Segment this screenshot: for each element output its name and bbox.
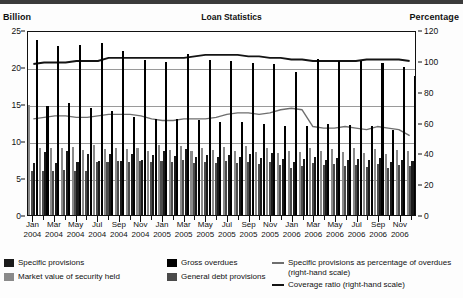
legend-item-specific_provisions: Specific provisions	[4, 258, 154, 268]
y-axis-right-tick	[418, 31, 422, 32]
y-axis-right-tick	[418, 185, 422, 186]
y-axis-right-tick	[418, 61, 422, 62]
y-axis-left-tick-label: 20	[12, 63, 21, 73]
bar-general_debt_provisions	[377, 164, 379, 215]
y-axis-left-tick	[21, 68, 25, 69]
bar-gross_overdues	[209, 60, 211, 215]
bar-specific_provisions	[44, 152, 46, 215]
bar-specific_provisions	[303, 159, 305, 215]
bar-market_value	[147, 151, 149, 215]
bar-specific_provisions	[347, 160, 349, 216]
legend-item-market_value: Market value of security held	[4, 272, 174, 282]
bar-market_value	[299, 152, 301, 215]
bar-market_value	[309, 148, 311, 215]
bar-general_debt_provisions	[301, 166, 303, 215]
bar-specific_provisions	[76, 162, 78, 215]
bar-specific_provisions	[368, 160, 370, 215]
bar-specific_provisions	[411, 161, 413, 215]
bar-specific_provisions	[87, 154, 89, 215]
bar-specific_provisions	[336, 158, 338, 215]
bar-market_value	[82, 150, 84, 215]
bar-specific_provisions	[120, 161, 122, 215]
bar-gross_overdues	[273, 64, 275, 215]
bar-general_debt_provisions	[312, 163, 314, 215]
bar-market_value	[212, 150, 214, 215]
bar-general_debt_provisions	[182, 160, 184, 215]
y-axis-right-tick-label: 60	[424, 119, 433, 129]
bar-market_value	[407, 151, 409, 215]
bar-gross_overdues	[144, 60, 146, 215]
bar-market_value	[288, 151, 290, 215]
bar-specific_provisions	[293, 162, 295, 215]
bar-gross_overdues	[57, 46, 59, 215]
bar-market_value	[201, 148, 203, 215]
bar-gross_overdues	[252, 63, 254, 215]
bar-market_value	[342, 152, 344, 215]
bar-gross_overdues	[327, 124, 329, 215]
bar-gross_overdues	[306, 126, 308, 215]
x-label-month: Nov	[383, 220, 417, 230]
bar-general_debt_provisions	[355, 165, 357, 215]
legend-line-swatch	[272, 284, 284, 286]
bar-specific_provisions	[109, 154, 111, 215]
x-axis-label: Nov2006	[383, 220, 417, 240]
bar-market_value	[396, 150, 398, 215]
bar-general_debt_provisions	[31, 171, 33, 215]
bar-gross_overdues	[122, 51, 124, 215]
bar-specific_provisions	[249, 154, 251, 215]
y-axis-left-tick	[21, 179, 25, 180]
y-axis-right-tick	[418, 216, 422, 217]
bar-market_value	[255, 152, 257, 215]
bar-general_debt_provisions	[160, 161, 162, 215]
bar-market_value	[72, 147, 74, 215]
bar-specific_provisions	[206, 155, 208, 215]
bar-gross_overdues	[176, 119, 178, 215]
bar-market_value	[158, 145, 160, 215]
legend-label: Gross overdues	[181, 258, 237, 268]
bar-gross_overdues	[263, 124, 265, 215]
bar-general_debt_provisions	[225, 161, 227, 215]
bar-general_debt_provisions	[366, 167, 368, 215]
bar-market_value	[28, 105, 30, 215]
bar-specific_provisions	[239, 157, 241, 215]
bar-specific_provisions	[379, 158, 381, 215]
legend-item-spec_pct_overdues: Specific provisions as percentage of ove…	[272, 258, 463, 278]
bar-specific_provisions	[131, 154, 133, 215]
y-axis-right-tick-label: 20	[424, 180, 433, 190]
bar-gross_overdues	[284, 126, 286, 215]
bar-general_debt_provisions	[171, 162, 173, 215]
bar-gross_overdues	[68, 103, 70, 215]
y-axis-right-tick	[418, 154, 422, 155]
legend-label: Market value of security held	[18, 272, 120, 282]
y-axis-left-tick	[21, 105, 25, 106]
chart-legend: Specific provisionsMarket value of secur…	[4, 258, 463, 296]
bar-general_debt_provisions	[63, 170, 65, 215]
y-axis-right-tick-label: 40	[424, 149, 433, 159]
y-axis-left: 0510152025	[0, 31, 25, 216]
legend-item-gross_overdues: Gross overdues	[167, 258, 257, 268]
bar-specific_provisions	[55, 163, 57, 215]
y-axis-right-tick-label: 80	[424, 88, 433, 98]
bar-market_value	[245, 146, 247, 215]
bar-gross_overdues	[338, 61, 340, 215]
bar-specific_provisions	[228, 155, 230, 215]
bar-specific_provisions	[390, 162, 392, 215]
bar-general_debt_provisions	[247, 162, 249, 215]
bar-market_value	[61, 148, 63, 215]
legend-line-swatch	[272, 262, 284, 264]
bar-market_value	[50, 148, 52, 215]
bar-general_debt_provisions	[139, 161, 141, 215]
chart-screenshot: Billion Percentage Loan Statistics 05101…	[0, 0, 463, 298]
bar-general_debt_provisions	[344, 166, 346, 215]
bar-specific_provisions	[163, 151, 165, 215]
bar-gross_overdues	[219, 122, 221, 215]
bar-gross_overdues	[360, 61, 362, 215]
y-axis-left-tick	[21, 142, 25, 143]
bar-market_value	[104, 149, 106, 215]
bar-gross_overdues	[187, 54, 189, 215]
bar-general_debt_provisions	[106, 162, 108, 215]
bar-general_debt_provisions	[128, 162, 130, 215]
y-axis-left-tick	[21, 31, 25, 32]
y-axis-left-tick-label: 15	[12, 100, 21, 110]
bar-gross_overdues	[165, 62, 167, 215]
